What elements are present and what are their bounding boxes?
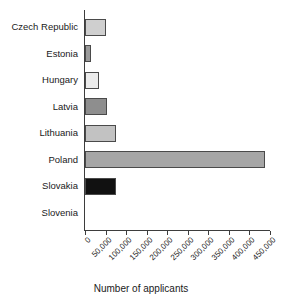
bar (85, 19, 106, 36)
bar (85, 45, 91, 62)
bar (85, 72, 99, 89)
category-label: Czech Republic (0, 22, 78, 32)
x-axis-title: Number of applicants (0, 283, 282, 294)
bar (85, 98, 107, 115)
plot-area (85, 14, 281, 226)
x-axis-line (84, 230, 270, 231)
category-label: Lithuania (0, 128, 78, 138)
x-axis-tick-labels: 050,000100,000150,000200,000250,000300,0… (0, 236, 282, 280)
bar-chart: Czech RepublicEstoniaHungaryLatviaLithua… (0, 0, 282, 302)
category-label: Estonia (0, 49, 78, 59)
bar (85, 178, 116, 195)
category-label: Slovakia (0, 181, 78, 191)
category-axis: Czech RepublicEstoniaHungaryLatviaLithua… (0, 14, 82, 226)
category-label: Poland (0, 155, 78, 165)
category-label: Hungary (0, 75, 78, 85)
category-label: Latvia (0, 102, 78, 112)
y-axis-line (84, 10, 85, 230)
bar (85, 151, 265, 168)
category-label: Slovenia (0, 208, 78, 218)
bar (85, 125, 116, 142)
